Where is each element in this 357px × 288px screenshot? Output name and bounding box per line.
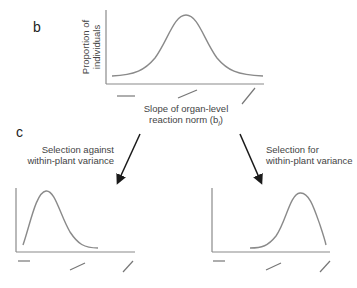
panel-label-c: c [16, 124, 23, 140]
y-label-line-1: Proportion of [80, 7, 91, 87]
bottom-left-chart-axes [16, 188, 135, 252]
y-label-line-2: individuals [91, 7, 102, 87]
steep-slope-icon [123, 261, 133, 272]
steep-slope-icon [320, 261, 330, 272]
top-chart-y-axis-label: Proportion of individuals [80, 7, 104, 87]
bottom-left-slope-glyphs [18, 261, 133, 272]
selection-for-label: Selection for within-plant variance [266, 144, 357, 166]
panel-label-b: b [33, 19, 41, 35]
steep-slope-icon [242, 88, 255, 104]
shallow-slope-icon [70, 263, 85, 270]
shallow-slope-icon [266, 263, 281, 270]
shallow-slope-icon [178, 90, 197, 98]
bottom-right-slope-glyphs [213, 261, 330, 272]
arrow-selection-for [240, 134, 261, 182]
x-label-line-2: reaction norm (bi) [126, 114, 246, 129]
bottom-right-chart-axes [212, 188, 330, 252]
bottom-right-distribution-curve [250, 193, 326, 248]
bottom-left-distribution-curve [23, 191, 98, 248]
top-chart-x-axis-label: Slope of organ-level reaction norm (bi) [126, 103, 246, 129]
selection-against-label: Selection against within-plant variance [14, 144, 114, 166]
x-label-line-1: Slope of organ-level [126, 103, 246, 114]
top-distribution-curve [112, 15, 263, 76]
arrow-selection-against [118, 134, 140, 182]
top-slope-glyphs [117, 88, 255, 104]
